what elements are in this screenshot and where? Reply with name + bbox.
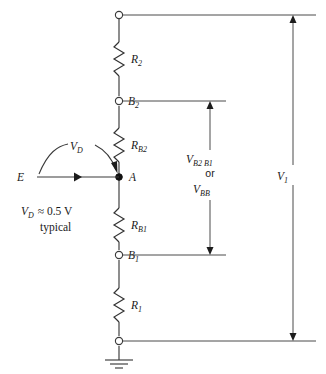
- interbase-arrow-up: [207, 101, 214, 109]
- circuit-schematic-canvas: R2 RB2 RB1 R1 B2 B1 A: [0, 0, 326, 374]
- vd-annotation-line2: typical: [40, 221, 71, 234]
- resistor-rb1: [114, 208, 124, 242]
- node-b2: [115, 97, 122, 104]
- node-a-label: A: [128, 171, 137, 183]
- interbase-voltage-label-line1: VB2 B1: [186, 153, 213, 168]
- resistor-r2-label: R2: [130, 53, 142, 68]
- top-terminal-node: [115, 11, 122, 18]
- interbase-voltage-label-line3: VBB: [193, 183, 210, 198]
- interbase-arrow-down: [207, 247, 214, 255]
- resistor-rb2-label: RB2: [130, 139, 147, 154]
- bottom-terminal-node: [115, 337, 122, 344]
- v1-arrow-down: [290, 333, 297, 341]
- interbase-voltage-label-or: or: [205, 167, 215, 179]
- v1-voltage-arrow: [290, 15, 297, 341]
- vd-annotation-line1: VD≈ 0.5 V: [21, 205, 73, 220]
- circuit-diagram-figure: R2 RB2 RB1 R1 B2 B1 A: [0, 0, 326, 374]
- node-b1: [115, 251, 122, 258]
- resistor-r1: [114, 288, 124, 322]
- v1-voltage-label: V1: [277, 170, 288, 185]
- resistor-r2: [114, 42, 124, 76]
- ground-symbol: [105, 360, 133, 368]
- emitter-branch: [37, 173, 119, 182]
- node-b1-label: B1: [128, 249, 139, 264]
- vd-arc-label: VD: [70, 140, 83, 155]
- v1-arrow-up: [290, 15, 297, 23]
- vd-arc-arrowhead: [111, 161, 118, 174]
- resistor-rb1-label: RB1: [130, 219, 147, 234]
- resistor-r1-label: R1: [130, 299, 142, 314]
- resistor-rb2: [114, 128, 124, 162]
- diode-arrowhead: [74, 173, 82, 182]
- node-b2-label: B2: [128, 95, 139, 110]
- emitter-label: E: [16, 171, 24, 183]
